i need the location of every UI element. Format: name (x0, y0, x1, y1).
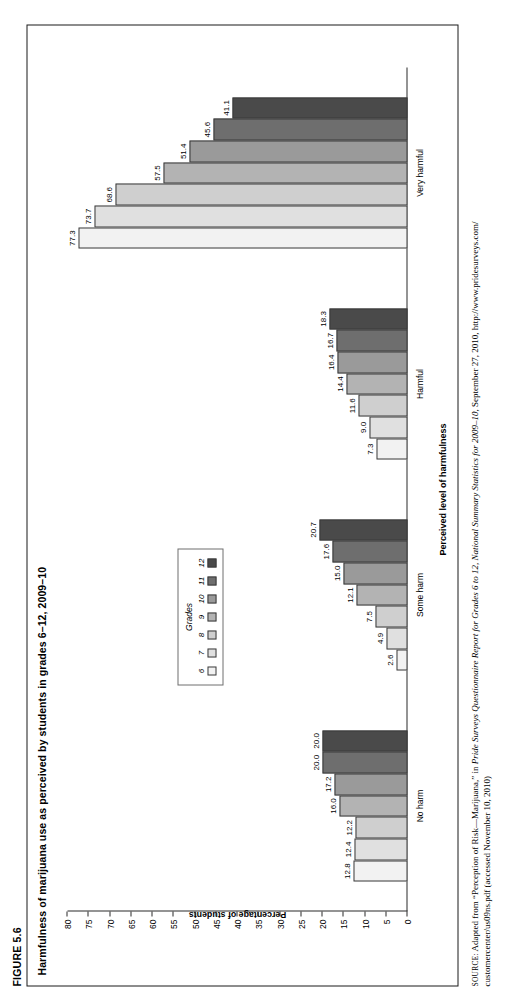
bar-value-label: 14.4 (335, 376, 344, 392)
bar-value-label: 57.5 (152, 165, 161, 181)
bar-grade-8: 68.6 (115, 183, 407, 205)
bar-value-label: 20.0 (311, 733, 320, 749)
legend-item-list: 6789101112 (196, 558, 216, 675)
bar-grade-6: 2.6 (396, 649, 407, 671)
bar-grade-12: 20.0 (322, 730, 407, 752)
bar-value-label: 12.4 (343, 841, 352, 857)
chart-canvas: Percentage of students Perceived level o… (67, 67, 407, 911)
bar-value-label: 16.7 (325, 332, 334, 348)
y-axis-tick (215, 911, 216, 916)
figure-title: Harmfulness of marijuana use as perceive… (35, 566, 47, 975)
x-axis-category-label: Very harmful (414, 149, 424, 197)
bar-grade-7: 4.9 (386, 627, 407, 649)
y-axis-tick-label: 70 (105, 919, 115, 928)
y-axis-tick (342, 911, 343, 916)
bar-grade-11: 16.7 (336, 329, 407, 351)
y-axis-tick (151, 911, 152, 916)
legend-item-label: 6 (196, 668, 205, 672)
bar-grade-10: 16.4 (337, 351, 407, 373)
y-axis-tick (406, 911, 407, 916)
bar-group-very-harmful: 77.373.768.657.551.445.641.1Very harmful (67, 67, 407, 278)
bar-grade-11: 20.0 (322, 751, 407, 773)
bar-grade-8: 12.2 (355, 816, 407, 838)
chart-legend: Grades 6789101112 (177, 548, 223, 685)
x-axis-label: Perceived level of harmfulness (437, 423, 447, 555)
bar-value-label: 2.6 (385, 654, 394, 665)
y-axis-tick-label: 50 (190, 919, 200, 928)
bar-grade-11: 17.6 (332, 540, 407, 562)
legend-item-grade-6: 6 (196, 666, 216, 675)
bar-grade-9: 12.1 (356, 584, 407, 606)
bar-value-label: 15.0 (332, 565, 341, 581)
legend-item-label: 11 (196, 576, 205, 584)
legend-item-grade-9: 9 (196, 612, 216, 621)
source-note: SOURCE: Adapted from “Perception of Risk… (468, 24, 492, 986)
bar-grade-9: 57.5 (163, 162, 407, 184)
bar-value-label: 16.4 (326, 354, 335, 370)
bar-grade-12: 18.3 (329, 308, 407, 330)
bar-grade-10: 15.0 (343, 562, 407, 584)
figure-frame: Harmfulness of marijuana use as perceive… (26, 24, 458, 986)
y-axis-tick (279, 911, 280, 916)
y-axis-tick (385, 911, 386, 916)
bar-grade-6: 12.8 (353, 860, 407, 882)
legend-swatch-icon (207, 612, 216, 621)
rotated-figure-container: FIGURE 5.6 Harmfulness of marijuana use … (0, 0, 523, 1000)
source-text-a: Adapted from “Perception of Risk—Marijua… (469, 764, 479, 953)
bar-grade-9: 16.0 (339, 795, 407, 817)
bar-value-label: 12.2 (344, 819, 353, 835)
bar-group-no-harm: 12.812.412.216.017.220.020.0No harm (67, 700, 407, 911)
source-text-b: , September 27, 2010, http://www.pridesu… (469, 221, 479, 411)
bar-value-label: 9.0 (358, 421, 367, 432)
y-axis-tick (257, 911, 258, 916)
bar-group-some-harm: 2.64.97.512.115.017.620.7Some harm (67, 489, 407, 700)
legend-swatch-icon (207, 666, 216, 675)
bar-grade-6: 77.3 (78, 227, 407, 249)
bar-grade-12: 41.1 (232, 97, 407, 119)
x-axis-category-label: Some harm (414, 573, 424, 617)
legend-swatch-icon (207, 648, 216, 657)
legend-swatch-icon (207, 594, 216, 603)
legend-item-label: 7 (196, 650, 205, 654)
bar-grade-11: 45.6 (213, 118, 407, 140)
bar-value-label: 51.4 (178, 143, 187, 159)
legend-item-label: 12 (196, 558, 205, 567)
legend-item-grade-7: 7 (196, 648, 216, 657)
bar-value-label: 17.6 (321, 543, 330, 559)
source-publication-title: Pride Surveys Questionnaire Report for G… (469, 411, 479, 764)
figure-number-label: FIGURE 5.6 (10, 927, 22, 986)
y-axis-tick-label: 75 (83, 919, 93, 928)
y-axis-tick-label: 20 (317, 919, 327, 928)
bar-value-label: 12.1 (345, 587, 354, 603)
y-axis-tick-label: 60 (147, 919, 157, 928)
bar-grade-7: 73.7 (94, 205, 407, 227)
bar-value-label: 17.2 (323, 776, 332, 792)
y-axis-tick-label: 80 (62, 919, 72, 928)
legend-item-grade-10: 10 (196, 594, 216, 603)
y-axis-tick-label: 30 (275, 919, 285, 928)
y-axis-tick-label: 65 (126, 919, 136, 928)
legend-swatch-icon (207, 630, 216, 639)
y-axis-tick-label: 0 (402, 919, 412, 924)
y-axis-tick (66, 911, 67, 916)
figure-page: FIGURE 5.6 Harmfulness of marijuana use … (0, 0, 523, 1000)
x-axis-category-label: Harmful (414, 369, 424, 399)
legend-swatch-icon (207, 558, 216, 567)
y-axis-tick (300, 911, 301, 916)
y-axis-tick (109, 911, 110, 916)
bar-group-harmful: 7.39.011.614.416.416.718.3Harmful (67, 278, 407, 489)
bar-value-label: 73.7 (83, 208, 92, 224)
source-prefix: SOURCE: (470, 953, 479, 986)
legend-item-grade-11: 11 (196, 576, 216, 585)
legend-item-label: 10 (196, 594, 205, 603)
bar-grade-8: 7.5 (375, 605, 407, 627)
y-axis-tick (236, 911, 237, 916)
y-axis-tick-label: 35 (253, 919, 263, 928)
bar-value-label: 77.3 (67, 230, 76, 246)
y-axis-tick-label: 40 (232, 919, 242, 928)
bar-value-label: 7.3 (365, 443, 374, 454)
source-text-line2: customercenter/us09ns.pdf (accessed Nove… (481, 776, 491, 986)
bar-grade-10: 51.4 (189, 140, 407, 162)
legend-item-label: 9 (196, 614, 205, 618)
x-axis-category-label: No harm (414, 789, 424, 822)
